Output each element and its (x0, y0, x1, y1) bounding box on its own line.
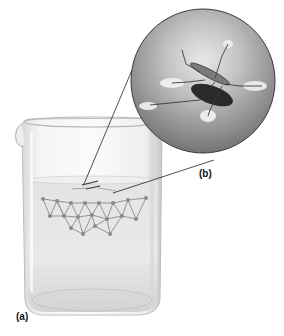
panel-label-a: (a) (16, 311, 28, 322)
panel-label-b: (b) (199, 168, 212, 179)
beaker (16, 117, 162, 315)
illustration (0, 0, 284, 336)
magnified-inset (131, 9, 275, 153)
water-strider-figure: (b) (a) (0, 0, 284, 336)
